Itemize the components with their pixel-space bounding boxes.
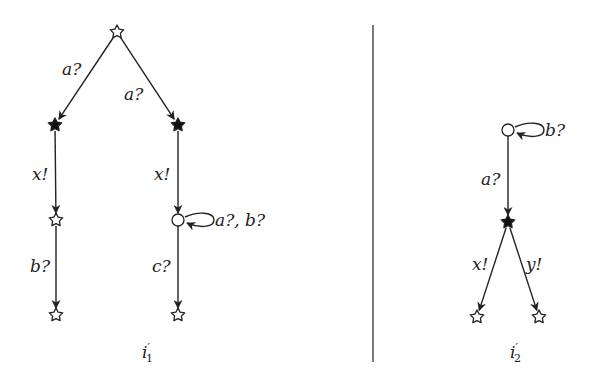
transition-diagram: a?a?x!x!b?c?a?, b?i′1b?a?x!y!i′2 — [0, 0, 600, 387]
self-loop-edge — [185, 213, 214, 226]
state-open-star-icon — [110, 25, 123, 38]
transition-edge — [55, 131, 56, 213]
edge-label: a? — [62, 59, 82, 79]
graph-caption: i′2 — [510, 341, 521, 365]
edge-label: c? — [152, 256, 172, 276]
state-circle-icon — [502, 124, 514, 136]
edge-label: b? — [30, 256, 51, 276]
state-open-star-icon — [49, 308, 62, 321]
edge-label: x! — [472, 254, 488, 274]
state-filled-star-icon — [171, 118, 184, 131]
state-filled-star-icon — [501, 215, 514, 228]
edge-label: a?, b? — [215, 210, 266, 230]
edge-label: b? — [545, 120, 566, 140]
graph-caption: i′1 — [142, 341, 153, 365]
state-open-star-icon — [171, 308, 184, 321]
state-filled-star-icon — [48, 118, 61, 131]
state-open-star-icon — [532, 310, 545, 323]
state-open-star-icon — [470, 310, 483, 323]
edge-label: y! — [525, 254, 542, 274]
edge-label: x! — [154, 164, 170, 184]
self-loop-edge — [515, 123, 544, 136]
transition-edge — [120, 37, 174, 119]
edge-label: a? — [124, 84, 144, 104]
edge-label: x! — [32, 164, 48, 184]
edge-label: a? — [481, 169, 501, 189]
state-open-star-icon — [49, 213, 62, 226]
state-circle-icon — [172, 214, 184, 226]
